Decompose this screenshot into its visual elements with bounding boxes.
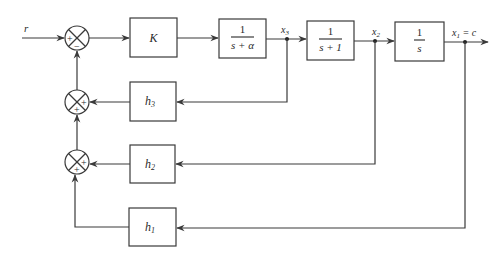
feedback-block-h1: h1: [129, 208, 176, 246]
signal-label-x1: x1 = c: [451, 27, 477, 40]
feedback-path-x1: [177, 42, 465, 228]
gain-label: K: [148, 31, 158, 45]
sign-minus: −: [74, 41, 80, 52]
signal-h1-to-sum: [75, 175, 129, 227]
sign-plus-right: +: [81, 97, 87, 108]
input-label-r: r: [24, 22, 29, 34]
sign-plus: +: [67, 33, 73, 44]
signal-label-x3: x3: [280, 24, 289, 37]
sign-plus-right: +: [81, 157, 87, 168]
feedback-block-h2: h2: [130, 145, 175, 183]
summing-junction-h2: + +: [65, 150, 89, 175]
sign-plus-bottom: +: [74, 104, 80, 115]
gain-block-k: K: [130, 18, 177, 57]
signal-label-x2: x2: [371, 26, 380, 39]
denominator: s + 1: [319, 41, 342, 53]
numerator: 1: [240, 23, 246, 35]
denominator: s + α: [231, 39, 254, 51]
numerator: 1: [328, 25, 334, 37]
summing-junction-h3: + +: [65, 90, 89, 115]
summing-junction-main: + −: [65, 26, 89, 52]
block-diagram: r + − K 1 s + α x3 1 s + 1 x2 1 s: [0, 0, 504, 263]
integrator-block: 1 s: [395, 22, 444, 61]
feedback-block-h3: h3: [130, 82, 176, 121]
transfer-block-s-plus-1: 1 s + 1: [307, 21, 354, 60]
sign-plus-bottom: +: [74, 164, 80, 175]
numerator: 1: [417, 26, 423, 38]
transfer-block-s-plus-alpha: 1 s + α: [219, 19, 266, 58]
denominator: s: [417, 42, 421, 54]
